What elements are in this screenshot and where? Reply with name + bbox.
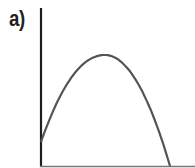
graph — [0, 0, 195, 168]
parabolic-curve — [41, 55, 170, 166]
